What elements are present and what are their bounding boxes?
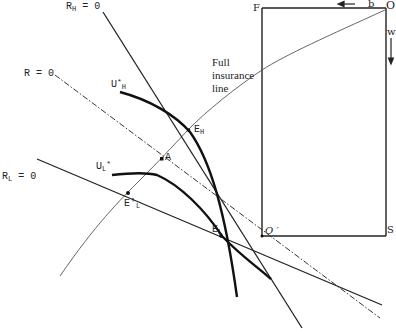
u-h-indifference-curve [120, 92, 237, 297]
r-l-zero-label: RL = 0 [2, 172, 36, 183]
corner-f-label: F [253, 3, 260, 13]
point-o-prime-marker [261, 235, 264, 238]
r-zero-label: R = 0 [24, 69, 54, 79]
r-h-zero-line [103, 12, 302, 328]
point-a-marker [160, 157, 164, 161]
u-l-indifference-curve [112, 173, 271, 279]
full-insurance-label: Full insurance line [212, 56, 254, 95]
point-e-h-label: EH [194, 125, 204, 136]
point-e-l-prime-label: E′L [124, 199, 140, 210]
u-l-label: UL* [96, 160, 111, 173]
corner-o-label: O [386, 0, 395, 11]
u-h-label: U*H [111, 78, 126, 91]
axis-b-label: b [368, 0, 374, 9]
arrow-left-icon [338, 2, 355, 7]
corner-s-label: S [387, 225, 394, 235]
point-e-h-marker [187, 128, 191, 132]
arrow-down-icon [389, 38, 394, 64]
point-e-l-prime-marker [126, 191, 130, 195]
axis-w-label: w [387, 27, 396, 37]
point-a-label: A [165, 153, 171, 163]
edgeworth-box [262, 8, 386, 236]
point-e-l-label: EL [212, 225, 222, 236]
corner-o-prime-label: O ′ [265, 226, 279, 236]
r-h-zero-label: RH = 0 [66, 2, 100, 13]
